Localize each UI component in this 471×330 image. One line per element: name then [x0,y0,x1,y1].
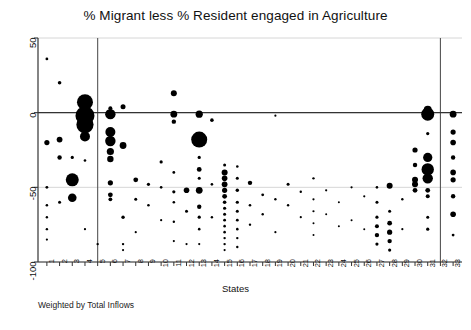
data-point [312,198,314,200]
data-point [426,228,429,231]
data-point [424,106,432,114]
plot-area [0,0,471,330]
data-point [134,198,137,201]
data-point [173,201,176,204]
data-point [198,156,201,159]
data-point [274,231,276,233]
x-tick-label: 2 [60,259,69,277]
data-point [401,228,403,230]
x-tick-label: 30 [415,259,424,277]
x-tick-label: 20 [288,259,297,277]
data-point [236,219,239,222]
data-point [375,224,379,228]
data-point [57,137,63,143]
data-point [375,201,378,204]
data-point [387,183,393,189]
data-point [160,160,163,163]
data-point [172,119,176,123]
data-point [173,220,175,222]
x-tick-label: 14 [212,259,221,277]
x-tick-label: 25 [352,259,361,277]
data-point [108,197,112,201]
data-point [412,147,417,152]
data-point [46,228,48,230]
data-point [223,243,225,245]
data-point [197,205,201,209]
data-point [135,231,137,233]
x-tick-label: 5 [98,259,107,277]
data-point [210,118,214,122]
data-point [236,237,238,239]
data-point [191,132,207,148]
data-point [222,169,228,175]
data-point [223,231,226,234]
data-point [338,201,340,203]
data-point [451,177,456,182]
data-point [172,171,175,174]
data-point [173,240,175,242]
data-point [450,211,456,217]
data-point [312,177,314,179]
x-tick-label: 26 [364,259,373,277]
data-point [388,248,391,251]
x-tick-label: 21 [301,259,310,277]
data-point [198,177,201,180]
x-tick-label: 24 [339,259,348,277]
data-point [375,233,379,237]
x-tick-label: 15 [225,259,234,277]
data-point [236,210,239,213]
data-point [198,228,201,231]
chart-container: % Migrant less % Resident engaged in Agr… [0,0,471,330]
data-point [222,176,228,182]
data-point [413,163,417,167]
data-point [196,111,203,118]
data-point [147,183,150,186]
x-tick-label: 3 [72,259,81,277]
data-point [236,228,239,231]
data-point [312,234,314,236]
chart-footnote: Weighted by Total Inflows [38,300,134,310]
data-point [387,239,391,243]
data-point [58,201,61,204]
data-point [171,90,177,96]
data-point [223,225,226,228]
data-point [76,116,93,133]
data-point [223,219,226,222]
data-point [452,234,455,237]
data-point [222,181,228,187]
data-point [248,181,252,185]
data-point [261,213,263,215]
data-point [105,127,115,137]
data-point [300,216,302,218]
x-tick-label: 28 [390,259,399,277]
x-axis-label: States [0,283,471,294]
data-point [223,200,227,204]
data-point [46,239,48,241]
x-tick-label: 27 [377,259,386,277]
data-point [451,155,455,159]
x-tick-label: 13 [199,259,208,277]
data-point [108,106,112,110]
data-point [108,192,113,197]
data-point [236,165,239,168]
data-point [312,210,314,212]
x-tick-label: 23 [326,259,335,277]
x-tick-label: 18 [263,259,272,277]
x-tick-label: 19 [275,259,284,277]
data-point [222,188,227,193]
data-point [44,140,49,145]
x-tick-label: 1 [47,259,56,277]
data-point [45,186,48,189]
data-point [236,201,239,204]
data-point [223,207,226,210]
data-point [451,129,456,134]
data-point [287,204,289,206]
data-point [450,170,456,176]
data-point [196,187,203,194]
data-point [261,193,264,196]
y-tick-label: -50 [27,187,38,215]
data-point [425,188,430,193]
data-point [172,190,175,193]
data-point [223,163,226,166]
x-tick-label: 29 [402,259,411,277]
